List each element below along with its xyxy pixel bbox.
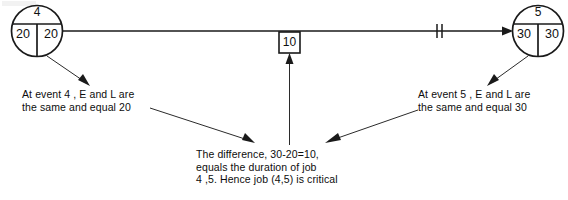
arrowhead-right-caption xyxy=(487,74,499,86)
leader-center-to-box xyxy=(286,53,294,145)
leader-node5-to-caption xyxy=(487,56,528,86)
event-node-5: 5 30 30 xyxy=(513,5,564,56)
leader-leftcaption-to-center xyxy=(150,108,255,143)
arrowhead-center-from-right xyxy=(325,133,341,143)
duration-box: 10 xyxy=(279,32,300,53)
event-5-latest: 30 xyxy=(545,27,559,41)
caption-critical-job-line3: 4 ,5. Hence job (4,5) is critical xyxy=(196,173,338,186)
arrowhead-duration-box xyxy=(286,53,294,64)
event-5-earliest: 30 xyxy=(517,27,531,41)
event-5-number: 5 xyxy=(535,5,542,19)
leader-rightcaption-to-center xyxy=(325,110,418,143)
caption-event-5-line1: At event 5 , E and L are xyxy=(418,88,530,101)
duration-box-label: 10 xyxy=(283,35,297,49)
arrowhead-event-5 xyxy=(502,27,513,36)
caption-event-4-line2: the same and equal 20 xyxy=(22,101,134,114)
event-4-number: 4 xyxy=(34,5,41,19)
caption-event-4-line1: At event 4 , E and L are xyxy=(22,88,134,101)
caption-critical-job-line2: equals the duration of job xyxy=(196,161,338,174)
event-4-earliest: 20 xyxy=(16,27,30,41)
caption-critical-job: The difference, 30-20=10, equals the dur… xyxy=(196,148,338,186)
caption-event-4: At event 4 , E and L are the same and eq… xyxy=(22,88,134,113)
caption-event-5-line2: the same and equal 30 xyxy=(418,101,530,114)
network-diagram: 4 20 20 5 30 30 10 xyxy=(0,0,568,200)
event-4-latest: 20 xyxy=(44,27,58,41)
caption-critical-job-line1: The difference, 30-20=10, xyxy=(196,148,338,161)
leader-node4-to-caption xyxy=(47,56,90,86)
arrowhead-center-from-left xyxy=(242,133,255,143)
caption-event-5: At event 5 , E and L are the same and eq… xyxy=(418,88,530,113)
arrowhead-left-caption xyxy=(78,74,90,86)
event-node-4: 4 20 20 xyxy=(12,5,63,56)
